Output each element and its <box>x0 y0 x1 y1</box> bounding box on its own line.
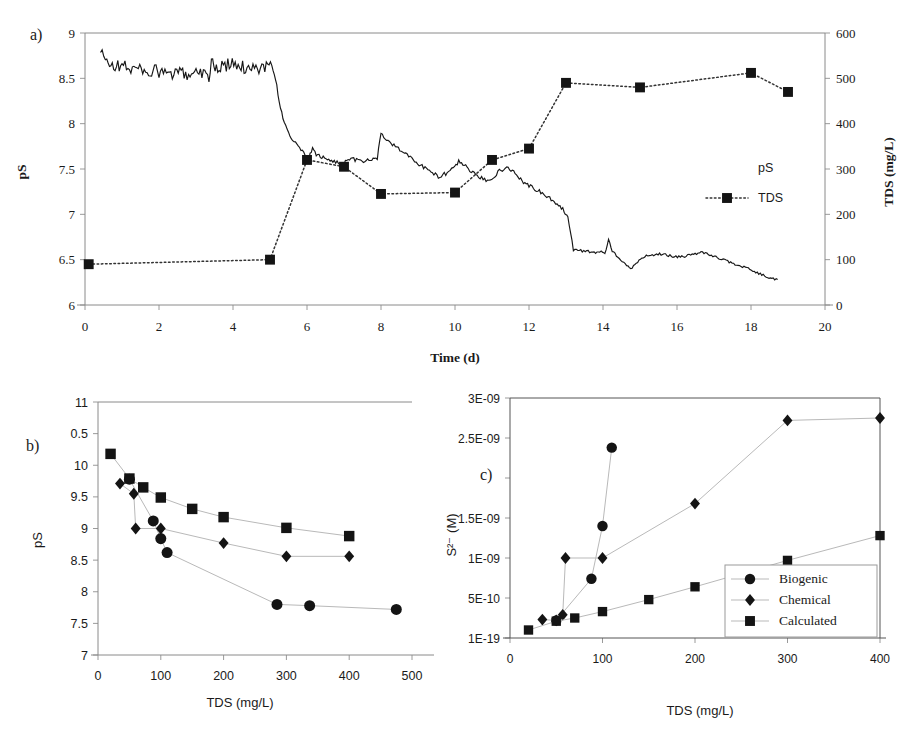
panel-b-y-tick-label: 8 <box>81 585 88 599</box>
panel-b-marker-chemical <box>129 488 139 500</box>
panel-b-x-axis: 0100200300400500 <box>95 655 423 683</box>
panel-b-marker-calculated <box>187 504 197 514</box>
panel-a-x-tick-label: 16 <box>671 319 685 334</box>
panel-a-ph-tds-timeseries: 66.577.588.59 0100200300400500600 024681… <box>0 0 911 380</box>
panel-a-x-tick-label: 10 <box>449 319 462 334</box>
panel-a-tds-marker <box>339 162 349 172</box>
panel-c-marker-biogenic <box>597 521 607 531</box>
panel-b-svg: 77.588.599.5100.511 0100200300400500 b) … <box>0 385 450 732</box>
panel-a-y2-tick-label: 300 <box>836 162 856 177</box>
panel-b-marker-chemical <box>281 550 291 562</box>
panel-b-marker-calculated <box>138 482 148 492</box>
panel-b-marker-biogenic <box>155 533 166 544</box>
panel-a-x-tick-label: 18 <box>745 319 758 334</box>
panel-a-data-area <box>84 50 793 280</box>
panel-a-tds-marker <box>450 188 460 198</box>
panel-b-x-tick-label: 400 <box>339 669 360 683</box>
panel-c-y-tick-label: 1E-19 <box>468 632 500 646</box>
panel-a-legend-label-tds: TDS <box>758 191 783 205</box>
panel-c-legend-label-biogenic: Biogenic <box>779 571 828 586</box>
panel-a-y-tick-label: 6 <box>69 298 76 313</box>
panel-b-marker-calculated <box>281 523 291 533</box>
panel-a-tds-marker <box>783 87 793 97</box>
panel-a-tds-marker <box>302 155 312 165</box>
panel-b-marker-chemical <box>115 478 125 490</box>
panel-c-legend: BiogenicChemicalCalculated <box>725 565 877 637</box>
panel-b-x-axis-title: TDS (mg/L) <box>206 695 273 710</box>
panel-a-tds-marker <box>635 82 645 92</box>
panel-c-marker-calculated <box>690 582 699 591</box>
panel-a-y-tick-label: 6.5 <box>59 252 75 267</box>
panel-b-marker-calculated <box>105 449 115 459</box>
panel-a-y2-tick-label: 600 <box>836 26 856 41</box>
panel-c-marker-chemical <box>783 414 793 426</box>
panel-a-x-tick-label: 20 <box>819 319 832 334</box>
panel-b-marker-calculated <box>124 473 134 483</box>
panel-c-x-tick-label: 300 <box>777 652 797 666</box>
panel-c-svg: 1E-195E-101E-091.5E-092.5E-093E-09 01002… <box>440 385 911 732</box>
panel-b-y-tick-label: 9.5 <box>71 490 88 504</box>
panel-a-tds-marker <box>376 189 386 199</box>
panel-c-marker-calculated <box>570 613 579 622</box>
panel-a-x-axis-title: Time (d) <box>430 350 480 365</box>
panel-b-label: b) <box>26 437 39 455</box>
panel-c-x-tick-label: 400 <box>870 652 890 666</box>
panel-a-x-axis: 02468101214161820 <box>82 305 832 334</box>
panel-a-svg: 66.577.588.59 0100200300400500600 024681… <box>0 0 911 380</box>
panel-c-y-tick-label: 5E-10 <box>468 592 500 606</box>
panel-a-y2-tick-label: 500 <box>836 71 856 86</box>
panel-a-left-axis: 66.577.588.59 <box>59 26 85 313</box>
panel-b-x-tick-label: 0 <box>95 669 102 683</box>
panel-a-y2-axis-title: TDS (mg/L) <box>881 137 896 206</box>
panel-a-y2-tick-label: 0 <box>836 298 843 313</box>
panel-c-y-tick-label: 1E-09 <box>468 552 500 566</box>
panel-c-y-tick-label: 2.5E-09 <box>458 432 500 446</box>
panel-c-marker-calculated <box>598 607 607 616</box>
panel-b-series-line-calculated <box>111 454 350 536</box>
panel-c-marker-calculated <box>644 595 653 604</box>
panel-b-y-tick-label: 11 <box>75 396 88 410</box>
panel-a-y2-tick-label: 200 <box>836 207 856 222</box>
panel-a-x-tick-label: 8 <box>378 319 385 334</box>
panel-a-y2-tick-label: 400 <box>836 116 856 131</box>
panel-a-x-tick-label: 2 <box>156 319 163 334</box>
panel-a-x-tick-label: 14 <box>597 319 611 334</box>
panel-b-x-tick-label: 500 <box>402 669 423 683</box>
panel-a-x-tick-label: 6 <box>304 319 311 334</box>
panel-a-ps-trace <box>101 50 778 280</box>
figure-container: 66.577.588.59 0100200300400500600 024681… <box>0 0 911 732</box>
panel-b-y-axis: 77.588.599.5100.511 <box>71 396 98 663</box>
panel-c-x-axis: 0100200300400 <box>507 638 891 666</box>
panel-c-marker-calculated <box>783 556 792 565</box>
panel-b-marker-calculated <box>156 492 166 502</box>
panel-c-marker-calculated <box>524 625 533 634</box>
panel-a-y-tick-label: 7 <box>69 207 76 222</box>
panel-a-y-tick-label: 7.5 <box>59 162 75 177</box>
panel-c-y-axis-title: S²⁻ (M) <box>444 513 459 556</box>
panel-b-x-tick-label: 200 <box>213 669 234 683</box>
panel-a-plot-frame <box>77 33 833 305</box>
panel-a-tds-marker <box>265 255 275 265</box>
panel-a-y-tick-label: 8 <box>69 116 76 131</box>
panel-c-marker-biogenic <box>586 574 596 584</box>
panel-a-tds-marker <box>487 155 497 165</box>
panel-a-tds-line <box>89 73 788 264</box>
panel-b-y-tick-label: 10 <box>74 459 88 473</box>
panel-a-tds-marker <box>524 144 534 154</box>
panel-b-marker-calculated <box>218 512 228 522</box>
panel-c-legend-label-calculated: Calculated <box>779 613 837 628</box>
panel-c-marker-chemical <box>598 552 608 564</box>
panel-b-y-tick-label: 7.5 <box>71 617 88 631</box>
panel-a-label: a) <box>30 26 42 44</box>
panel-b-y-tick-label: 9 <box>81 522 88 536</box>
panel-a-y-tick-label: 8.5 <box>59 71 75 86</box>
panel-b-x-tick-label: 300 <box>276 669 297 683</box>
panel-a-tds-marker <box>561 78 571 88</box>
panel-c-x-tick-label: 200 <box>685 652 705 666</box>
panel-c-label: c) <box>480 466 492 484</box>
panel-a-y-axis-title: pS <box>14 164 29 179</box>
panel-c-x-axis-title: TDS (mg/L) <box>666 703 733 718</box>
panel-b-marker-chemical <box>344 550 354 562</box>
panel-c-y-axis: 1E-195E-101E-091.5E-092.5E-093E-09 <box>458 392 510 646</box>
panel-a-legend-marker-tds <box>722 193 732 203</box>
